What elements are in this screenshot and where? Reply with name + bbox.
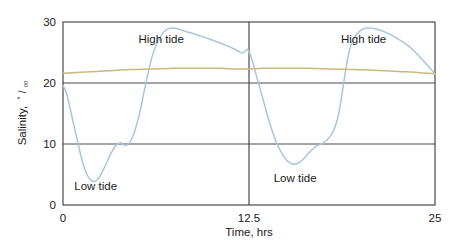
y-axis-title-label: Salinity, — [16, 106, 28, 145]
x-axis-title: Time, hrs — [225, 226, 273, 238]
y-axis-unit-denominator: ₀₀ — [20, 81, 29, 88]
y-tick-label-0: 0 — [50, 199, 56, 211]
annotation-low-tide-3: Low tide — [274, 172, 317, 184]
chart-figure: 0102030 012.525 High tideLow tideHigh ti… — [0, 0, 467, 242]
annotation-high-tide-0: High tide — [139, 33, 184, 45]
y-tick-label-20: 20 — [43, 77, 56, 89]
annotation-low-tide-1: Low tide — [74, 180, 117, 192]
chart-background — [0, 0, 467, 242]
x-tick-label-12.5: 12.5 — [238, 212, 260, 224]
y-axis-unit-numerator: ° — [16, 97, 25, 100]
y-tick-label-30: 30 — [43, 16, 56, 28]
y-tick-label-10: 10 — [43, 138, 56, 150]
x-tick-label-0: 0 — [60, 212, 66, 224]
annotation-high-tide-2: High tide — [341, 33, 386, 45]
x-tick-label-25: 25 — [429, 212, 442, 224]
salinity-tide-chart: 0102030 012.525 High tideLow tideHigh ti… — [0, 0, 467, 242]
y-axis-unit-slash: / — [17, 90, 28, 93]
